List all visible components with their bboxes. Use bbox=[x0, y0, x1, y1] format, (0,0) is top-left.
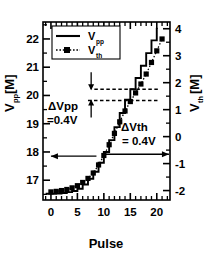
vth-marker bbox=[80, 180, 85, 185]
vth-marker bbox=[107, 142, 112, 147]
delta-vpp-line2: =0.4V bbox=[47, 114, 78, 126]
vth-marker bbox=[149, 60, 154, 65]
y-left-ticklabel: 18 bbox=[26, 146, 39, 158]
y-left-ticklabel: 21 bbox=[26, 61, 39, 73]
y-right-ticklabel: 3 bbox=[175, 50, 181, 62]
vth-marker bbox=[75, 183, 80, 188]
x-ticklabel: 0 bbox=[48, 206, 54, 218]
vth-marker bbox=[154, 48, 159, 53]
y-right-ticklabel: 0 bbox=[175, 131, 181, 143]
vth-marker bbox=[70, 185, 75, 190]
legend: V pp V th bbox=[52, 26, 120, 59]
y-right-ticklabel: 2 bbox=[175, 77, 181, 89]
vth-marker bbox=[54, 189, 59, 194]
vth-marker bbox=[96, 162, 101, 167]
figure-container: 171819202122 -2-101234 05101520 ΔVpp =0.… bbox=[0, 0, 207, 256]
y-left-ticklabel: 22 bbox=[26, 33, 39, 45]
delta-vth-line2: = 0.4V bbox=[122, 135, 156, 147]
y-axis-left-title-unit: [M] bbox=[2, 75, 17, 95]
vth-marker bbox=[128, 99, 133, 104]
vth-marker bbox=[64, 187, 69, 192]
y-axis-right-title-main: V bbox=[187, 103, 202, 112]
chart-svg: 171819202122 -2-101234 05101520 ΔVpp =0.… bbox=[0, 0, 207, 256]
x-ticklabel: 15 bbox=[124, 206, 137, 218]
x-axis-title: Pulse bbox=[89, 236, 124, 251]
y-right-ticklabel: -1 bbox=[175, 158, 186, 170]
y-right-ticklabel: 4 bbox=[175, 23, 182, 35]
legend-label-vpp: V bbox=[88, 30, 96, 42]
x-ticklabel: 5 bbox=[74, 206, 81, 218]
y-right-ticklabel: -2 bbox=[175, 185, 185, 197]
legend-label-vth: V bbox=[88, 44, 96, 56]
x-ticklabel: 10 bbox=[97, 206, 110, 218]
y-axis-left-title-main: V bbox=[2, 103, 17, 112]
y-left-ticklabel: 17 bbox=[26, 174, 39, 186]
vth-marker bbox=[122, 108, 127, 113]
vth-marker bbox=[91, 170, 96, 175]
y-axis-right-title-unit: [M] bbox=[187, 75, 202, 95]
legend-box bbox=[52, 26, 120, 59]
delta-vpp-line1: ΔVpp bbox=[48, 100, 78, 112]
y-left-ticklabel: 19 bbox=[26, 118, 39, 130]
legend-label-vth-sub: th bbox=[96, 52, 102, 59]
y-left-ticklabel: 20 bbox=[26, 89, 39, 101]
y-axis-right-title-sub: th bbox=[196, 96, 205, 103]
legend-label-vpp-sub: pp bbox=[96, 38, 104, 46]
y-right-ticklabel: 1 bbox=[175, 104, 182, 116]
vth-marker bbox=[85, 176, 90, 181]
vth-marker bbox=[48, 189, 53, 194]
vth-marker bbox=[159, 36, 164, 41]
vth-marker bbox=[112, 131, 117, 136]
x-ticklabel: 20 bbox=[150, 206, 163, 218]
vth-marker bbox=[138, 81, 143, 86]
vth-marker bbox=[59, 188, 64, 193]
delta-vth-line1: ΔVth bbox=[121, 121, 148, 133]
vth-marker bbox=[133, 90, 138, 95]
vth-marker bbox=[144, 71, 149, 76]
